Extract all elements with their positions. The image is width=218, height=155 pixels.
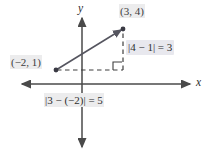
horizontal-distance-annotation: |3 − (−2)| = 5 — [44, 95, 104, 106]
x-axis-label: x — [196, 77, 201, 89]
vertical-distance-text: |4 − 1| = 3 — [126, 40, 174, 55]
horizontal-distance-text: |3 − (−2)| = 5 — [44, 93, 104, 107]
point-label-b: (3, 4) — [119, 6, 145, 17]
right-angle-marker — [113, 62, 122, 70]
vertical-distance-annotation: |4 − 1| = 3 — [126, 42, 174, 53]
point-marker-a — [54, 68, 59, 73]
point-label-a: (−2, 1) — [10, 57, 42, 68]
figure-graphics — [0, 0, 218, 155]
coordinate-plane-figure: (3, 4) (−2, 1) |4 − 1| = 3 |3 − (−2)| = … — [0, 0, 218, 155]
y-axis-label: y — [78, 3, 83, 15]
point-marker-b — [121, 27, 126, 32]
point-label-b-text: (3, 4) — [119, 4, 145, 18]
distance-segment — [56, 30, 121, 70]
point-label-a-text: (−2, 1) — [10, 55, 42, 69]
